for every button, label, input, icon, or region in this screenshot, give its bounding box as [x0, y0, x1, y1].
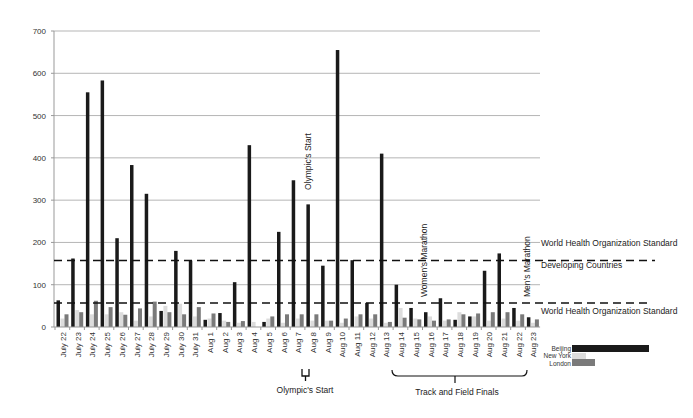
bar-new-york	[487, 321, 491, 327]
y-tick-label: 200	[33, 238, 47, 247]
x-tick-label: Aug 4	[250, 331, 259, 352]
pollution-bar-chart: 0100200300400500600700 July 22July 23Jul…	[0, 0, 693, 418]
x-tick-label: Aug 14	[397, 331, 406, 357]
bar-new-york	[222, 321, 226, 327]
x-tick-label: Aug 7	[294, 331, 303, 352]
bar-london	[138, 308, 142, 327]
x-tick-label: Aug 8	[309, 331, 318, 352]
bar-london	[226, 322, 230, 327]
bar-beijing	[174, 251, 178, 327]
bar-london	[491, 312, 495, 327]
x-tick-label: Aug 16	[427, 331, 436, 357]
bar-beijing	[336, 50, 340, 327]
bar-beijing	[424, 312, 428, 327]
bar-beijing	[115, 238, 119, 327]
x-tick-label: July 29	[162, 331, 171, 357]
bar-london	[182, 314, 186, 327]
legend-london-label: London	[549, 360, 571, 367]
bar-london	[167, 312, 171, 327]
bar-london	[373, 314, 377, 327]
bar-new-york	[399, 308, 403, 327]
x-tick-label: July 27	[133, 331, 142, 357]
bar-new-york	[252, 322, 256, 327]
bar-beijing	[483, 271, 487, 327]
bar-london	[432, 321, 436, 327]
track-field-bracket-label: Track and Field Finals	[415, 387, 498, 397]
bar-london	[461, 314, 465, 327]
bar-london	[344, 319, 348, 327]
bar-beijing	[351, 260, 355, 327]
bar-london	[403, 318, 407, 327]
bar-beijing	[527, 317, 531, 327]
mens-marathon-label: Men's Marathon	[522, 236, 532, 297]
bar-new-york	[502, 319, 506, 327]
x-axis: July 22July 23July 24July 25July 26July …	[54, 327, 540, 357]
x-tick-label: July 28	[147, 331, 156, 357]
bar-beijing	[189, 261, 193, 327]
bar-new-york	[193, 316, 197, 327]
bar-beijing	[409, 308, 413, 327]
bar-new-york	[531, 323, 535, 327]
bar-new-york	[443, 321, 447, 327]
x-tick-label: Aug 17	[441, 331, 450, 357]
bar-london	[476, 313, 480, 327]
bar-new-york	[90, 314, 94, 327]
legend-newyork-swatch	[572, 353, 586, 359]
bar-beijing	[380, 154, 384, 327]
bar-london	[270, 316, 274, 327]
bar-beijing	[306, 204, 310, 327]
bar-london	[359, 314, 363, 327]
bar-new-york	[384, 323, 388, 327]
bar-london	[535, 319, 539, 327]
bar-new-york	[237, 323, 241, 327]
x-tick-label: Aug 9	[324, 331, 333, 352]
bar-new-york	[516, 321, 520, 327]
bar-london	[506, 312, 510, 327]
who-standard-bottom-label: World Health Organization Standard	[541, 306, 678, 316]
bar-london	[212, 313, 216, 327]
bar-london	[447, 319, 451, 327]
bar-london	[285, 314, 289, 327]
bar-beijing	[498, 253, 502, 327]
x-tick-label: July 30	[177, 331, 186, 357]
bar-new-york	[428, 316, 432, 327]
track-field-bracket: Track and Field Finals	[392, 370, 527, 397]
bar-beijing	[439, 298, 443, 327]
bar-beijing	[453, 320, 457, 327]
bar-london	[241, 321, 245, 327]
bar-london	[109, 307, 113, 327]
x-tick-label: Aug 12	[368, 331, 377, 357]
bar-new-york	[149, 316, 153, 327]
bar-beijing	[292, 180, 296, 327]
bar-new-york	[208, 319, 212, 327]
olympic-start-bracket-label: Olympic's Start	[277, 385, 335, 395]
bar-beijing	[71, 258, 75, 327]
who-standard-top-label: World Health Organization Standard	[541, 238, 678, 248]
legend-beijing-swatch	[572, 345, 649, 352]
legend-london-swatch	[572, 359, 595, 366]
x-tick-label: Aug 5	[265, 331, 274, 352]
bar-beijing	[262, 322, 266, 327]
bar-beijing	[86, 92, 90, 327]
x-tick-label: July 25	[103, 331, 112, 357]
bar-beijing	[321, 266, 325, 327]
bar-london	[153, 302, 157, 327]
bar-new-york	[134, 321, 138, 327]
bar-london	[94, 301, 98, 327]
bar-new-york	[340, 323, 344, 327]
x-tick-label: Aug 15	[412, 331, 421, 357]
y-tick-label: 100	[33, 281, 47, 290]
bar-london	[417, 319, 421, 327]
x-tick-label: Aug 6	[280, 331, 289, 352]
bar-new-york	[266, 319, 270, 327]
who-developing-label: Developing Countries	[541, 260, 622, 270]
bar-beijing	[277, 232, 281, 327]
bar-london	[197, 307, 201, 327]
bar-new-york	[457, 312, 461, 327]
y-tick-label: 400	[33, 154, 47, 163]
legend-newyork-label: New York	[544, 352, 572, 359]
bar-new-york	[163, 306, 167, 327]
bar-new-york	[281, 323, 285, 327]
x-tick-label: Aug 13	[382, 331, 391, 357]
x-tick-label: Aug 22	[515, 331, 524, 357]
